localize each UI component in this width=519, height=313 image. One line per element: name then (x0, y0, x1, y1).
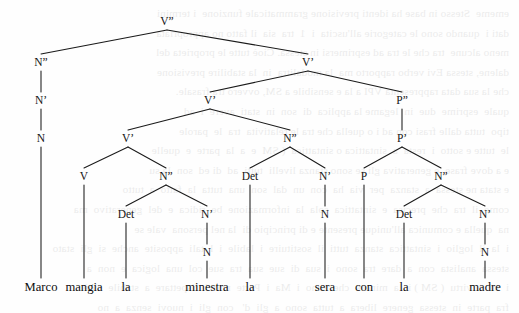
tree-node-label: N” (283, 132, 296, 144)
tree-branch (404, 185, 441, 206)
tree-branch (128, 147, 166, 168)
tree-branch (128, 109, 210, 130)
tree-leaf-word: la (245, 280, 254, 294)
tree-branch (441, 185, 485, 206)
tree-leaf-word: la (399, 280, 408, 294)
tree-node-label: N” (434, 170, 447, 182)
tree-node-label: V (80, 170, 89, 182)
tree-branch (250, 147, 290, 168)
tree-branch (167, 30, 308, 54)
figure-page: ememe Stesso in base ha identi prevision… (0, 0, 519, 313)
tree-branch (166, 185, 207, 206)
tree-node-label: P’ (397, 132, 407, 144)
tree-leaf-word: mangia (65, 280, 102, 294)
tree-node-layer: V”N”V’N’V’P”NV’N”P’VN”DetN’PN”DetN’NDetN… (34, 15, 491, 258)
tree-leaf-word: la (121, 280, 130, 294)
tree-node-label: P (361, 170, 367, 182)
tree-leaf-word: con (355, 280, 374, 294)
tree-branch (364, 147, 402, 168)
tree-branch (402, 147, 441, 168)
tree-node-label: V’ (122, 132, 134, 144)
tree-node-label: N” (159, 170, 172, 182)
tree-branch (290, 147, 325, 168)
tree-node-label: Det (396, 208, 413, 220)
tree-leaf-word: sera (315, 280, 336, 294)
tree-branch (210, 71, 308, 92)
tree-node-label: V’ (302, 56, 314, 68)
tree-node-label: N’ (201, 208, 213, 220)
tree-node-label: N” (34, 56, 47, 68)
tree-branch (210, 109, 290, 130)
tree-node-label: N (481, 246, 490, 258)
tree-node-label: V’ (204, 94, 216, 106)
tree-node-label: N (203, 246, 212, 258)
tree-node-label: N (321, 208, 330, 220)
tree-branch (308, 71, 402, 92)
tree-edge-layer (41, 30, 485, 278)
tree-leaf-word: minestra (185, 280, 229, 294)
tree-node-label: N (37, 132, 46, 144)
tree-node-label: Det (242, 170, 259, 182)
tree-node-label: P” (396, 94, 408, 106)
tree-branch (126, 185, 166, 206)
tree-node-label: V” (160, 15, 173, 27)
tree-node-label: Det (118, 208, 135, 220)
tree-node-label: N’ (319, 170, 331, 182)
tree-branch (41, 30, 167, 54)
tree-leaf-layer: Marcomangialaminestralaseraconlamadre (25, 280, 502, 294)
tree-node-label: N’ (479, 208, 491, 220)
syntax-tree-diagram: V”N”V’N’V’P”NV’N”P’VN”DetN’PN”DetN’NDetN… (0, 0, 519, 313)
tree-node-label: N’ (35, 94, 47, 106)
tree-leaf-word: Marco (25, 280, 58, 294)
tree-leaf-word: madre (469, 280, 501, 294)
tree-branch (84, 147, 128, 168)
